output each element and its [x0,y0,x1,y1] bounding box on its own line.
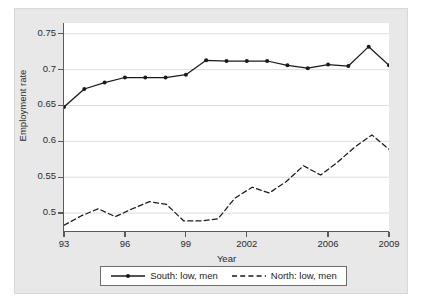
data-point [326,63,330,67]
x-tick-label: 2006 [317,239,338,249]
data-point [143,76,147,80]
data-point [245,59,249,63]
data-point [123,76,127,80]
x-tick-label: 93 [59,239,70,249]
legend-key-0 [110,271,146,281]
y-tick-label: 0.6 [43,135,56,145]
y-tick-label: 0.75 [38,28,57,38]
x-tick-label: 96 [120,239,131,249]
x-tick-label: 99 [181,239,192,249]
x-axis-title: Year [64,253,389,264]
x-tick-label: 2002 [236,239,257,249]
data-point [285,63,289,67]
legend-label: North: low, men [271,271,337,281]
y-tick-mark [58,141,63,142]
y-tick-mark [58,177,63,178]
x-tick-mark [327,232,328,237]
y-axis-title: Employment rate [17,51,28,161]
data-point [82,87,86,91]
data-series-layer [64,45,389,226]
x-tick-mark [63,232,64,237]
x-tick-mark [246,232,247,237]
plot-area [64,23,389,231]
x-tick-label: 2009 [378,239,399,249]
y-tick-mark [58,69,63,70]
y-tick-label: 0.7 [43,64,56,74]
legend-label: South: low, men [150,271,218,281]
chart-legend: South: low, menNorth: low, men [100,266,347,286]
x-tick-mark [185,232,186,237]
data-point [184,73,188,77]
y-tick-label: 0.55 [38,171,57,181]
data-point [367,45,371,49]
plot-svg [64,23,389,231]
y-tick-mark [58,33,63,34]
legend-entry-0: South: low, men [110,271,218,281]
y-tick-mark [58,212,63,213]
data-point [204,58,208,62]
y-tick-label: 0.65 [38,99,57,109]
series-line-0 [64,47,389,107]
legend-entry-1: North: low, men [231,271,337,281]
data-point [103,81,107,85]
chart-screenshot: 0.50.550.60.650.70.75 939699200220062009… [0,0,422,302]
data-point [346,64,350,68]
y-axis-line [63,23,64,232]
x-tick-mark [124,232,125,237]
y-tick-label: 0.5 [43,207,56,217]
x-axis-line [63,231,389,232]
y-tick-mark [58,105,63,106]
data-point [265,59,269,63]
legend-key-1 [231,271,267,281]
series-line-1 [64,135,389,225]
data-point [225,59,229,63]
data-point [306,66,310,70]
data-point [164,76,168,80]
x-tick-mark [388,232,389,237]
